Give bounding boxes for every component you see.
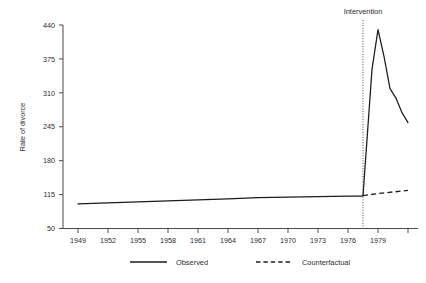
divorce-rate-line-chart: 50115180245310375440 Rate of divorce 194… bbox=[0, 0, 426, 283]
x-axis-ticks bbox=[78, 229, 408, 234]
series-counterfactual-line bbox=[363, 190, 408, 195]
y-axis-group: 50115180245310375440 Rate of divorce bbox=[18, 21, 63, 234]
legend-item-counterfactual: Counterfactual bbox=[256, 258, 350, 267]
legend-label-observed: Observed bbox=[176, 258, 208, 267]
x-tick-label: 1973 bbox=[310, 236, 326, 245]
x-tick-label: 1949 bbox=[70, 236, 86, 245]
y-tick-label: 310 bbox=[43, 89, 55, 98]
legend-label-counterfactual: Counterfactual bbox=[302, 258, 350, 267]
x-tick-label: 1970 bbox=[280, 236, 296, 245]
plot-area bbox=[78, 30, 408, 204]
y-tick-label: 375 bbox=[43, 55, 55, 64]
chart-legend: Observed Counterfactual bbox=[130, 258, 350, 267]
y-tick-label: 180 bbox=[43, 156, 55, 165]
y-axis-title: Rate of divorce bbox=[18, 103, 27, 151]
x-tick-label: 1964 bbox=[220, 236, 236, 245]
intervention-label: Intervention bbox=[344, 7, 383, 16]
legend-item-observed: Observed bbox=[130, 258, 208, 267]
x-tick-label: 1952 bbox=[100, 236, 116, 245]
x-tick-label: 1958 bbox=[160, 236, 176, 245]
y-axis-ticks bbox=[59, 25, 63, 229]
x-tick-label: 1961 bbox=[190, 236, 206, 245]
x-axis-tick-labels: 1949195219551958196119641967197019731976… bbox=[70, 236, 386, 245]
series-observed-line bbox=[78, 30, 408, 204]
y-axis-tick-labels: 50115180245310375440 bbox=[43, 21, 55, 234]
y-tick-label: 440 bbox=[43, 21, 55, 30]
y-tick-label: 245 bbox=[43, 122, 55, 131]
chart-container: 50115180245310375440 Rate of divorce 194… bbox=[0, 0, 426, 283]
x-tick-label: 1976 bbox=[340, 236, 356, 245]
x-axis-group: 1949195219551958196119641967197019731976… bbox=[63, 229, 418, 245]
x-tick-label: 1955 bbox=[130, 236, 146, 245]
y-tick-label: 50 bbox=[47, 224, 55, 233]
y-tick-label: 115 bbox=[44, 190, 55, 199]
x-tick-label: 1967 bbox=[250, 236, 266, 245]
x-tick-label: 1979 bbox=[370, 236, 386, 245]
